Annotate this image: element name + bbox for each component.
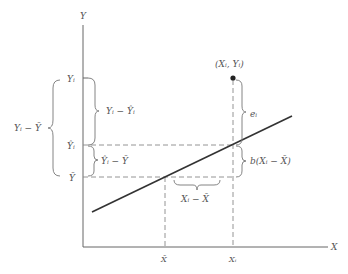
label-residual-right: eᵢ — [250, 109, 257, 119]
brace-explained-left — [88, 146, 98, 176]
y-axis-label: Y — [80, 11, 87, 21]
x-tick-xi: Xᵢ — [228, 255, 237, 264]
regression-diagram: (Xᵢ, Yᵢ) Y X Yᵢ Ŷᵢ Ȳ X̄ Xᵢ Yᵢ − Ȳ Yᵢ − Ŷ… — [0, 0, 348, 274]
brace-explained-right — [236, 146, 246, 177]
brace-residual-left — [88, 78, 99, 145]
point-label: (Xᵢ, Yᵢ) — [215, 59, 244, 69]
label-explained-left: Ŷᵢ − Ȳ — [101, 155, 129, 166]
x-tick-xbar: X̄ — [160, 255, 167, 264]
label-explained-right: b(Xᵢ − X̄) — [250, 155, 291, 166]
data-point — [230, 75, 235, 80]
y-tick-yi: Yᵢ — [67, 74, 75, 84]
label-residual-left: Yᵢ − Ŷᵢ — [106, 105, 135, 116]
brace-total-deviation — [48, 80, 60, 176]
x-axis-label: X — [330, 242, 338, 252]
brace-residual-right — [236, 80, 246, 145]
label-total-deviation: Yᵢ − Ȳ — [14, 122, 42, 133]
brace-x-deviation — [174, 180, 220, 190]
y-tick-yhat: Ŷᵢ — [67, 140, 75, 151]
label-x-deviation: Xᵢ − X̄ — [180, 193, 209, 204]
y-tick-ybar: Ȳ — [69, 172, 76, 183]
